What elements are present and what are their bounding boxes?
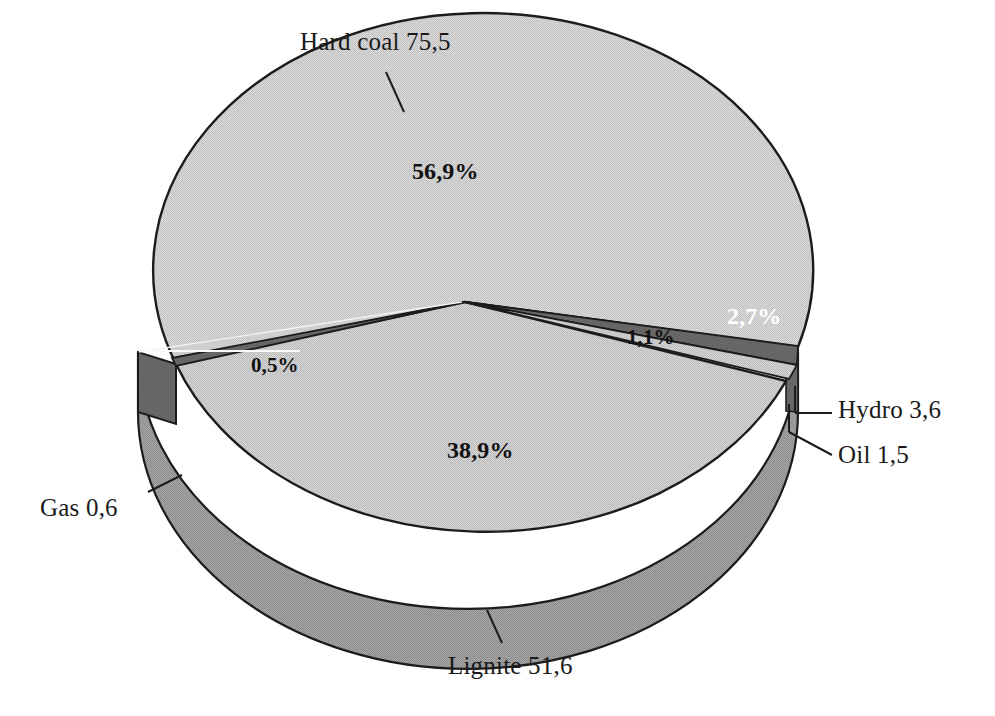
slice-label-hard-coal: Hard coal 75,5 [300, 28, 451, 56]
slice-label-gas: Gas 0,6 [40, 494, 118, 522]
slice-percent-lignite: 38,9% [447, 437, 514, 464]
cylinder-side-gas [138, 352, 176, 424]
slice-label-oil: Oil 1,5 [838, 441, 909, 469]
pie-chart-canvas [0, 0, 995, 716]
slice-label-lignite: Lignite 51,6 [448, 652, 573, 680]
slice-percent-hard-coal: 56,9% [412, 158, 479, 185]
pie-chart-figure: Hard coal 75,5 Lignite 51,6 Gas 0,6 Hydr… [0, 0, 995, 716]
slice-percent-hydro: 2,7% [727, 303, 781, 330]
slice-percent-oil: 1,1% [627, 325, 675, 350]
slice-percent-gas: 0,5% [251, 353, 299, 378]
slice-label-hydro: Hydro 3,6 [838, 396, 941, 424]
